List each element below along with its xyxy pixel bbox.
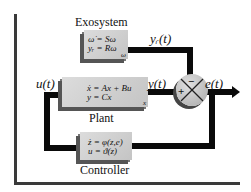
plant-equation-2: y = Cx bbox=[87, 93, 112, 102]
controller-block: ż = φ(z,e) u = ϑ(z) bbox=[80, 132, 132, 160]
wire-error-feedback-bottom bbox=[132, 143, 215, 149]
wire-control-vertical bbox=[44, 92, 50, 151]
plant-title: Plant bbox=[89, 111, 114, 126]
reference-signal-label: yᵣ(t) bbox=[150, 31, 171, 47]
plant-state-label: x bbox=[143, 99, 146, 107]
exosystem-block: ω̇ = Sω yᵣ = Rω ω bbox=[84, 30, 128, 59]
wire-error-feedback-down bbox=[209, 92, 215, 149]
error-signal-label: e(t) bbox=[205, 76, 223, 92]
controller-title: Controller bbox=[80, 163, 129, 178]
wire-control-top bbox=[44, 92, 62, 98]
plant-block: ẋ = Ax + Bu y = Cx x bbox=[62, 77, 148, 107]
arrow-head-icon bbox=[232, 86, 240, 98]
exosystem-title: Exosystem bbox=[75, 15, 128, 30]
frame-bottom-border bbox=[14, 182, 240, 185]
input-signal-label: u(t) bbox=[36, 76, 55, 92]
wire-reference-horizontal bbox=[127, 47, 193, 53]
minus-sign: − bbox=[188, 75, 194, 87]
summing-junction: − + bbox=[176, 74, 208, 106]
output-signal-label: y(t) bbox=[148, 76, 166, 92]
controller-equation-2: u = ϑ(z) bbox=[88, 147, 117, 156]
exosystem-equation-2: yᵣ = Rω bbox=[88, 44, 117, 53]
wire-reference-vertical bbox=[187, 47, 193, 77]
plus-sign: + bbox=[178, 85, 184, 97]
exosystem-state-label: ω bbox=[121, 51, 126, 59]
frame-left-border bbox=[14, 14, 17, 185]
